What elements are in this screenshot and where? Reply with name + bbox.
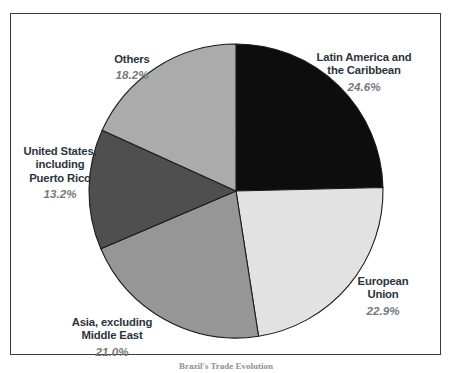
slice-value-united-states: 13.2%	[8, 186, 112, 201]
slice-label-united-states: United States, including Puerto Rico 13.…	[8, 132, 112, 214]
slice-label-latin-america-caribbean: Latin America and the Caribbean 24.6%	[294, 38, 434, 107]
slice-value-european-union: 22.9%	[330, 303, 436, 318]
slice-label-others-text: Others	[114, 53, 150, 65]
slice-value-others: 18.2%	[78, 67, 186, 82]
slice-value-asia: 21.0%	[42, 344, 182, 359]
slice-label-others: Others 18.2%	[78, 40, 186, 96]
slice-value-latin-america-caribbean: 24.6%	[294, 79, 434, 94]
slice-label-asia-text: Asia, excluding Middle East	[72, 316, 153, 341]
slice-label-latin-america-caribbean-text: Latin America and the Caribbean	[317, 51, 412, 76]
slice-label-european-union: European Union 22.9%	[330, 262, 436, 331]
slice-label-european-union-text: European Union	[358, 275, 409, 300]
pie-chart-figure: Others 18.2% Latin America and the Carib…	[0, 0, 452, 373]
figure-caption: Brazil's Trade Evolution	[0, 361, 452, 373]
slice-label-united-states-text: United States, including Puerto Rico	[23, 145, 96, 183]
